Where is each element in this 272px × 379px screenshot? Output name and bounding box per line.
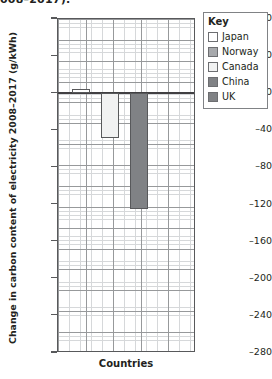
legend-item-label: Japan <box>222 31 249 42</box>
bar-japan <box>72 89 90 94</box>
y-tick-label: –240 <box>238 310 272 320</box>
bar-china <box>130 93 148 209</box>
y-tick-label: –200 <box>238 273 272 283</box>
legend-item-canada: Canada <box>208 59 264 74</box>
y-tick-label: –280 <box>238 347 272 357</box>
legend-swatch-icon <box>208 32 218 42</box>
legend-swatch-icon <box>208 77 218 87</box>
y-tick-label: –40 <box>238 124 272 134</box>
clipped-title: 008–2017). <box>0 0 272 5</box>
legend-item-label: UK <box>222 91 235 102</box>
legend-item-label: Norway <box>222 46 258 57</box>
major-gridlines <box>58 19 194 351</box>
legend-swatch-icon <box>208 47 218 57</box>
y-axis-title: Change in carbon content of electricity … <box>5 12 21 364</box>
legend-item-label: China <box>222 76 249 87</box>
legend-item-uk: UK <box>208 89 264 104</box>
y-tick-label: –80 <box>238 161 272 171</box>
legend-swatch-icon <box>208 62 218 72</box>
legend-items: JapanNorwayCanadaChinaUK <box>208 29 264 104</box>
legend-box: Key JapanNorwayCanadaChinaUK <box>203 12 268 109</box>
bar-canada <box>101 93 119 138</box>
x-axis-title: Countries <box>57 358 195 369</box>
legend-item-norway: Norway <box>208 44 264 59</box>
legend-item-china: China <box>208 74 264 89</box>
legend-item-japan: Japan <box>208 29 264 44</box>
legend-title: Key <box>208 16 264 27</box>
y-tick-label: –160 <box>238 236 272 246</box>
y-tick-label: –120 <box>238 199 272 209</box>
legend-swatch-icon <box>208 92 218 102</box>
legend-item-label: Canada <box>222 61 259 72</box>
plot-area <box>57 18 195 352</box>
